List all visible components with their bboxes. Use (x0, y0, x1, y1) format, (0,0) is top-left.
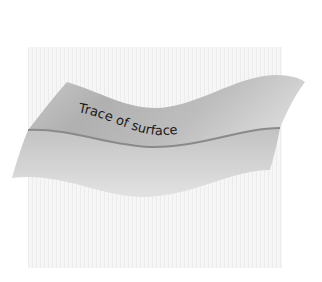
edge-highlight (260, 60, 310, 180)
surface-diagram: Trace of surface (0, 0, 322, 282)
